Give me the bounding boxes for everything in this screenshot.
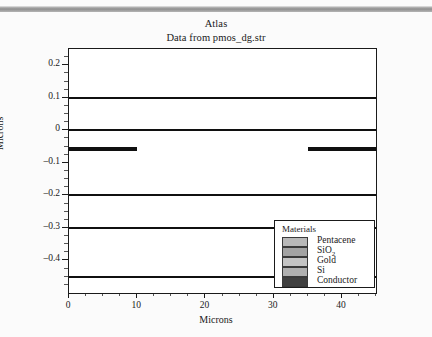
legend-item-label: Conductor [317,275,357,285]
material-region-gold [308,147,376,151]
y-tick-label: –0.3 [20,221,60,231]
x-axis-title: Microns [0,314,432,325]
y-tick-label: –0.2 [20,188,60,198]
layer-boundary-line [69,129,376,131]
legend-swatch-conductor [282,277,308,287]
legend-title: Materials [282,224,316,234]
y-tick-label: –0.1 [20,156,60,166]
legend-item-label: Si [317,265,325,275]
plot-canvas: Atlas Data from pmos_dg.str Microns Micr… [0,12,432,325]
y-axis-title: Microns [0,117,5,150]
page-subtitle: Data from pmos_dg.str [0,32,432,43]
x-tick-label: 20 [184,300,224,310]
x-tick-label: 40 [321,300,361,310]
legend-item-label: Pentacene [317,235,356,245]
y-tick-label: –0.4 [20,253,60,263]
legend-swatch-pentacene [282,237,308,247]
x-tick-label: 30 [253,300,293,310]
legend-box: Materials PentaceneSiO2GoldSiConductor [274,220,375,288]
y-tick-label: 0 [20,123,60,133]
legend-item-label: Gold [317,255,336,265]
x-tick-label: 0 [48,300,88,310]
material-region-gold [69,147,137,151]
layer-boundary-line [69,97,376,99]
layer-boundary-line [69,194,376,196]
y-tick-label: 0.2 [20,58,60,68]
y-tick-label: 0.1 [20,91,60,101]
page-title: Atlas [0,18,432,29]
x-tick-label: 10 [116,300,156,310]
legend-swatch-sio2 [282,247,308,257]
legend-swatch-si [282,267,308,277]
legend-swatch-gold [282,257,308,267]
